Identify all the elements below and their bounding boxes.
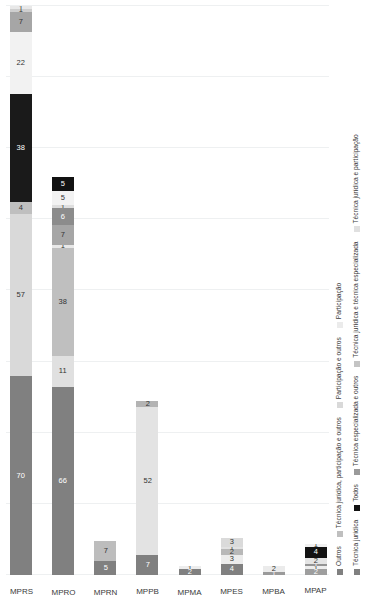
bar-mprs[interactable]: 705743822711 <box>10 6 32 575</box>
bar-segment[interactable]: 2 <box>305 569 327 575</box>
bar-mppb[interactable]: 7522 <box>136 6 158 575</box>
bar-segment-value: 7 <box>145 561 149 569</box>
bar-segment[interactable]: 4 <box>221 564 243 575</box>
bar-segment-value: 38 <box>17 145 25 153</box>
category-tick-mpma: MPMA <box>179 575 201 613</box>
bar-segment-value: 4 <box>19 204 23 212</box>
bar-segment-value: 38 <box>59 298 67 306</box>
legend-label: Participação <box>336 283 343 319</box>
bar-segment[interactable]: 7 <box>52 225 74 245</box>
bar-segment[interactable]: 7 <box>136 555 158 575</box>
category-tick-label: MPES <box>220 587 243 596</box>
bar-segment-value: 1 <box>314 566 318 569</box>
bar-segment[interactable]: 5 <box>52 191 74 205</box>
bar-segment-value: 1 <box>61 245 65 248</box>
bar-segment-value: 66 <box>59 477 67 485</box>
bar-segment-value: 2 <box>314 569 318 575</box>
bar-segment[interactable]: 22 <box>10 32 32 95</box>
bar-segment-value: 5 <box>103 564 107 572</box>
category-tick-label: MPBA <box>263 587 286 596</box>
legend-swatch-icon <box>354 569 360 575</box>
bar-mpba[interactable]: 12 <box>263 6 285 575</box>
bar-segment[interactable]: 2 <box>221 549 243 555</box>
bar-segment[interactable]: 5 <box>52 177 74 191</box>
bar-segment[interactable]: 4 <box>305 547 327 558</box>
bar-segment-value: 4 <box>230 566 234 574</box>
bar-segment[interactable]: 3 <box>221 538 243 547</box>
bar-segment[interactable]: 2 <box>305 558 327 564</box>
legend-item[interactable]: Participação e outros <box>336 337 343 408</box>
legend-item[interactable]: Todos <box>353 484 360 511</box>
legend-item[interactable]: Técnica especializada e outros <box>353 376 360 476</box>
bar-segment-value: 2 <box>230 549 234 555</box>
bar-segment-value: 1 <box>314 544 318 547</box>
bar-segment[interactable]: 57 <box>10 214 32 376</box>
chart-legend: OutrosTécnica jurídica, participação e o… <box>329 6 369 575</box>
bar-segment[interactable]: 7 <box>10 12 32 32</box>
legend-item[interactable]: Outros <box>336 546 343 575</box>
category-tick-mpap: MPAP <box>305 575 327 613</box>
bar-mpro[interactable]: 661138176155 <box>52 6 74 575</box>
bar-segment[interactable]: 38 <box>10 94 32 202</box>
bar-segment-value: 6 <box>61 213 65 221</box>
bar-mpap[interactable]: 211241 <box>305 6 327 575</box>
bar-segment[interactable]: 1 <box>10 9 32 12</box>
bar-segment[interactable]: 1 <box>305 566 327 569</box>
legend-label: Técnica jurídica, participação e outros <box>336 417 343 528</box>
bar-mpma[interactable]: 21 <box>179 6 201 575</box>
stacked-bar-chart: MPRSMPROMPRNMPPBMPMAMPESMPBAMPAP 7057438… <box>0 0 369 613</box>
bar-segment[interactable]: 1 <box>52 205 74 208</box>
bar-segment[interactable]: 38 <box>52 248 74 356</box>
bar-segment[interactable]: 1 <box>305 544 327 547</box>
bar-segment[interactable]: 1 <box>10 6 32 9</box>
bar-segment[interactable]: 7 <box>94 541 116 561</box>
rotated-figure-container: MPRSMPROMPRNMPPBMPMAMPESMPBAMPAP 7057438… <box>0 0 369 613</box>
bar-segment[interactable]: 1 <box>179 566 201 569</box>
bar-segment-value: 11 <box>59 368 67 376</box>
legend-item[interactable]: Técnica jurídica e participação <box>353 134 360 232</box>
legend-swatch-icon <box>337 531 343 537</box>
bar-segment-value: 70 <box>17 472 25 480</box>
legend-item[interactable]: Participação <box>336 283 343 328</box>
bar-segment[interactable]: 2 <box>179 569 201 575</box>
category-tick-mpes: MPES <box>221 575 243 613</box>
category-tick-label: MPRO <box>51 588 75 597</box>
legend-label: Técnica jurídica e participação <box>353 134 360 223</box>
bar-segment[interactable]: 4 <box>10 202 32 213</box>
bar-segment-value: 2 <box>145 401 149 407</box>
bar-segment-value: 7 <box>19 18 23 26</box>
bar-segment[interactable]: 52 <box>136 407 158 555</box>
bar-segment[interactable]: 1 <box>52 245 74 248</box>
bar-segment-value: 1 <box>230 547 234 550</box>
category-tick-label: MPRS <box>9 587 32 596</box>
category-tick-label: MPMA <box>178 588 202 597</box>
bar-segment[interactable]: 2 <box>136 401 158 407</box>
bar-segment[interactable]: 70 <box>10 376 32 575</box>
bar-segment[interactable]: 11 <box>52 356 74 387</box>
bar-segment-value: 1 <box>19 9 23 12</box>
plot-area: 7057438227116611381761555775222143213122… <box>6 6 329 575</box>
legend-swatch-icon <box>337 569 343 575</box>
legend-item[interactable]: Técnica jurídica e técnica especializada <box>353 241 360 366</box>
bar-mprn[interactable]: 57 <box>94 6 116 575</box>
bar-segment[interactable]: 1 <box>221 547 243 550</box>
legend-row-top: OutrosTécnica jurídica, participação e o… <box>331 6 348 575</box>
bar-segment[interactable]: 3 <box>221 555 243 564</box>
legend-row-bottom: Técnica jurídicaTodosTécnica especializa… <box>348 6 365 575</box>
legend-item[interactable]: Técnica jurídica, participação e outros <box>336 417 343 537</box>
category-label-list: MPRSMPROMPRNMPPBMPMAMPESMPBAMPAP <box>6 575 329 613</box>
bar-segment-value: 3 <box>230 539 234 547</box>
bar-segment-value: 52 <box>143 477 151 485</box>
legend-item[interactable]: Técnica jurídica <box>353 520 360 575</box>
bar-segment[interactable]: 1 <box>305 564 327 567</box>
bar-segment[interactable]: 6 <box>52 208 74 225</box>
bar-segment-value: 4 <box>314 549 318 557</box>
bar-segment[interactable]: 5 <box>94 561 116 575</box>
bar-segment[interactable]: 1 <box>263 572 285 575</box>
bar-mpes[interactable]: 43213 <box>221 6 243 575</box>
legend-swatch-icon <box>354 505 360 511</box>
category-tick-label: MPRN <box>94 587 118 596</box>
bar-segment-value: 57 <box>17 291 25 299</box>
bar-segment[interactable]: 66 <box>52 387 74 575</box>
bar-segment[interactable]: 2 <box>263 566 285 572</box>
